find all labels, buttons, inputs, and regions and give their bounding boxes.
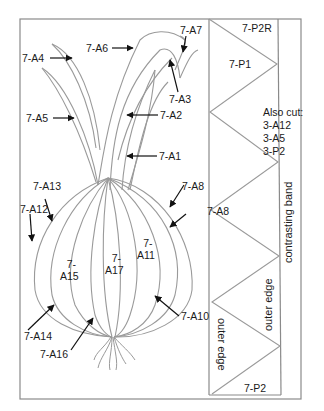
label-contrasting-band: contrasting band (282, 182, 294, 263)
label-outer-edge-left: outer edge (216, 318, 228, 371)
label-7-a7: 7-A7 (180, 24, 202, 36)
also-cut-item: 3-A5 (263, 132, 303, 145)
label-7-a1: 7-A1 (159, 150, 181, 162)
also-cut-note: Also cut: 3-A12 3-A5 3-P2 (263, 106, 303, 158)
label-arrows (28, 36, 186, 350)
label-7-a8: 7-A8 (182, 180, 204, 192)
label-7-a11: 7- A11 (137, 237, 155, 261)
block-frame (20, 19, 301, 399)
label-7-a10: 7-A10 (181, 310, 209, 322)
label-7-a4: 7-A4 (22, 52, 44, 64)
label-7-a14: 7-A14 (24, 330, 52, 342)
label-7-a5: 7-A5 (26, 112, 48, 124)
label-strip-7-a8: 7-A8 (207, 205, 229, 217)
label-7-a12: 7-A12 (20, 203, 48, 215)
label-7-a2: 7-A2 (160, 109, 182, 121)
label-7-a15: 7- A15 (60, 258, 79, 282)
onion-roots (94, 337, 135, 370)
label-7-a17: 7- A17 (105, 252, 124, 276)
label-7-p2r: 7-P2R (242, 22, 272, 34)
also-cut-item: 3-P2 (263, 145, 303, 158)
label-7-a3: 7-A3 (169, 93, 191, 105)
label-outer-edge-inner: outer edge (262, 278, 274, 331)
label-7-p1: 7-P1 (229, 58, 251, 70)
also-cut-item: 3-A12 (263, 119, 303, 132)
also-cut-title: Also cut: (263, 106, 303, 119)
label-7-a6: 7-A6 (86, 42, 108, 54)
label-7-a16: 7-A16 (40, 348, 68, 360)
label-7-a13: 7-A13 (33, 180, 61, 192)
label-7-p2: 7-P2 (244, 382, 266, 394)
